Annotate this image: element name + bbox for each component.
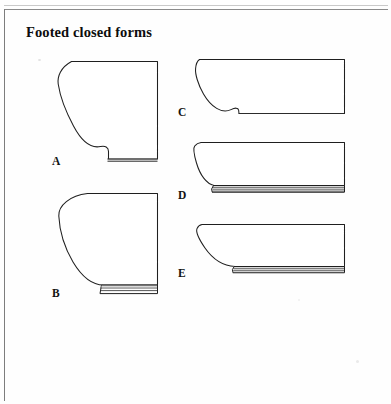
figure-a-outline (58, 62, 157, 160)
figure-b-profile (59, 194, 158, 294)
figure-c-profile (196, 60, 345, 114)
figure-e-profile (197, 225, 345, 273)
vessel-profile-drawings (0, 0, 391, 404)
figure-c-outline (196, 60, 345, 114)
figure-label-e: E (178, 268, 186, 280)
figure-a-profile (58, 62, 157, 162)
figure-e-outline (197, 225, 345, 267)
figure-d-profile (194, 143, 345, 193)
figure-label-b: B (52, 288, 60, 300)
figure-b-foot-shade (101, 286, 157, 288)
figure-label-c: C (178, 107, 186, 119)
figure-d-foot-band (213, 186, 345, 193)
figure-label-a: A (52, 156, 60, 168)
figure-e-foot-band (234, 267, 345, 273)
figure-b-outline (59, 194, 158, 286)
figure-d-outline (194, 143, 345, 186)
figure-plate: Footed closed forms (0, 0, 391, 404)
figure-label-d: D (178, 190, 186, 202)
